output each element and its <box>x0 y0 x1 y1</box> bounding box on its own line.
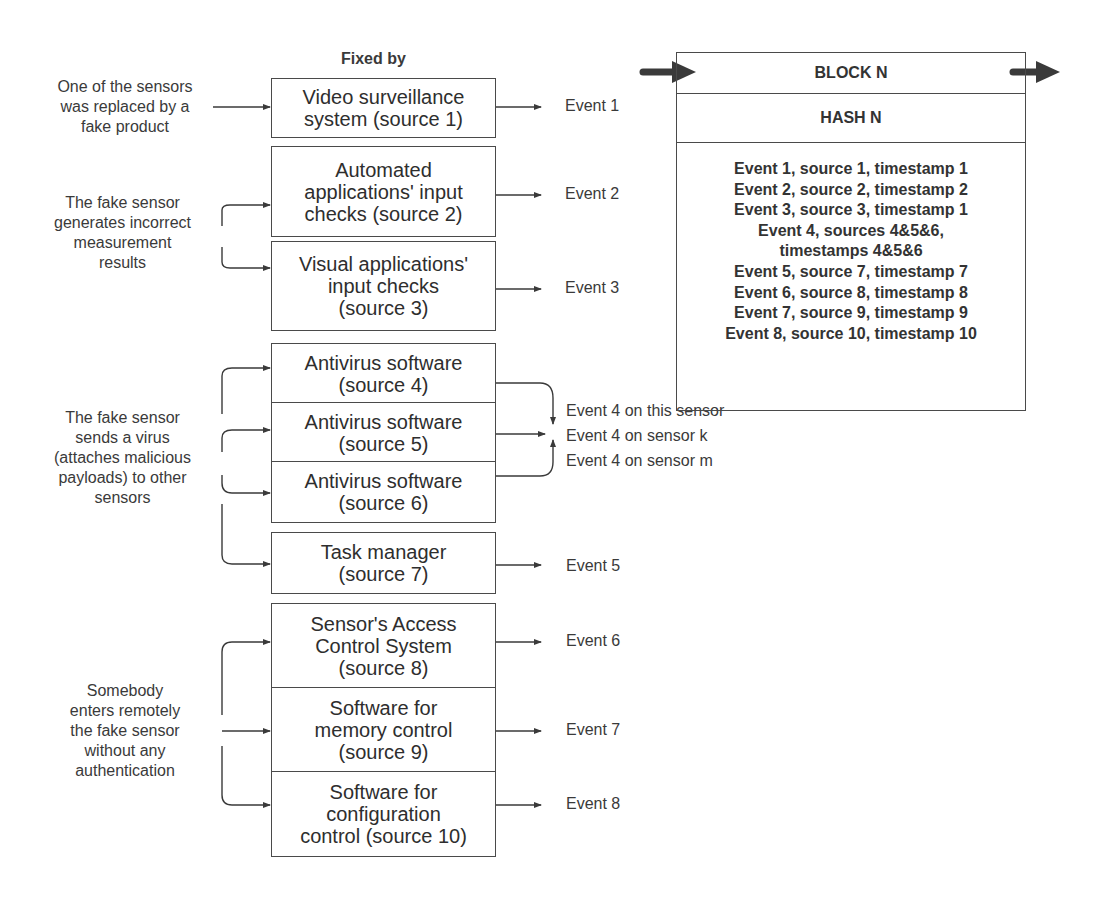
source-label: Antivirus software (source 4) <box>305 352 463 396</box>
event-3-label: Event 3 <box>565 279 619 297</box>
source-label: Software for configuration control (sour… <box>300 781 467 847</box>
source-label: Software for memory control (source 9) <box>315 697 453 763</box>
threat-virus: The fake sensor sends a virus (attaches … <box>25 408 220 508</box>
event-2-label: Event 2 <box>565 185 619 203</box>
threat-incorrect-measurement: The fake sensor generates incorrect meas… <box>25 193 220 273</box>
threat-remote-access: Somebody enters remotely the fake sensor… <box>30 681 220 781</box>
block-entry: timestamps 4&5&6 <box>677 241 1025 262</box>
fixed-by-heading: Fixed by <box>341 50 406 68</box>
block-entry: Event 4, sources 4&5&6, <box>677 221 1025 242</box>
source-box-3: Visual applications' input checks (sourc… <box>271 241 496 331</box>
block-hash: HASH N <box>677 94 1025 143</box>
block-entry: Event 2, source 2, timestamp 2 <box>677 180 1025 201</box>
source-label: Sensor's Access Control System (source 8… <box>310 613 456 679</box>
source-label: Antivirus software (source 5) <box>305 411 463 455</box>
source-box-7: Task manager (source 7) <box>271 532 496 594</box>
source-box-6: Antivirus software (source 6) <box>271 461 496 523</box>
source-box-2: Automated applications' input checks (so… <box>271 146 496 237</box>
source-label: Automated applications' input checks (so… <box>304 159 462 225</box>
source-label: Task manager (source 7) <box>321 541 447 585</box>
source-label: Video surveillance system (source 1) <box>303 86 465 130</box>
event-8-label: Event 8 <box>566 795 620 813</box>
block-event-list: Event 1, source 1, timestamp 1 Event 2, … <box>677 143 1025 344</box>
block-entry: Event 5, source 7, timestamp 7 <box>677 262 1025 283</box>
block-entry: Event 1, source 1, timestamp 1 <box>677 159 1025 180</box>
source-box-10: Software for configuration control (sour… <box>271 771 496 857</box>
block-entry: Event 8, source 10, timestamp 10 <box>677 324 1025 345</box>
event-7-label: Event 7 <box>566 721 620 739</box>
source-box-8: Sensor's Access Control System (source 8… <box>271 603 496 689</box>
source-label: Visual applications' input checks (sourc… <box>299 253 468 319</box>
event-6-label: Event 6 <box>566 632 620 650</box>
event-4-sensor-m-label: Event 4 on sensor m <box>566 452 713 470</box>
block-entry: Event 6, source 8, timestamp 8 <box>677 283 1025 304</box>
source-box-1: Video surveillance system (source 1) <box>271 78 496 138</box>
event-5-label: Event 5 <box>566 557 620 575</box>
source-label: Antivirus software (source 6) <box>305 470 463 514</box>
source-box-4: Antivirus software (source 4) <box>271 343 496 404</box>
source-box-5: Antivirus software (source 5) <box>271 402 496 463</box>
threat-fake-product: One of the sensors was replaced by a fak… <box>30 77 220 137</box>
block-title: BLOCK N <box>677 53 1025 94</box>
event-4-sensor-k-label: Event 4 on sensor k <box>566 427 707 445</box>
block-entry: Event 3, source 3, timestamp 1 <box>677 200 1025 221</box>
block-entry: Event 7, source 9, timestamp 9 <box>677 303 1025 324</box>
block-n: BLOCK N HASH N Event 1, source 1, timest… <box>676 52 1026 411</box>
source-box-9: Software for memory control (source 9) <box>271 687 496 773</box>
event-1-label: Event 1 <box>565 97 619 115</box>
